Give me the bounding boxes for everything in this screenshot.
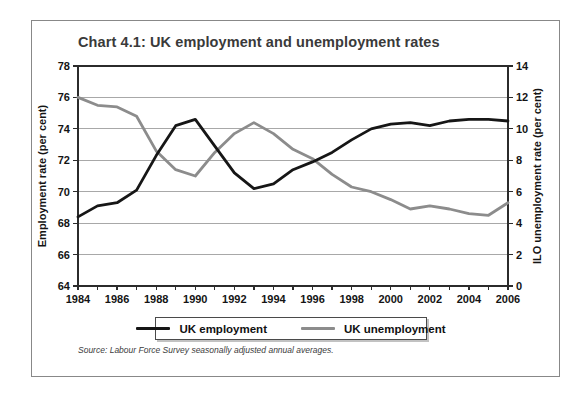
legend-label-employment: UK employment <box>179 323 267 335</box>
legend: UK employment UK unemployment <box>155 317 427 340</box>
x-axis-tick-label: 1994 <box>261 293 286 305</box>
x-axis-tick-label: 1988 <box>144 293 168 305</box>
x-axis-tick-label: 2006 <box>496 293 520 305</box>
left-axis-tick-label: 66 <box>58 249 70 261</box>
right-axis-tick-label: 12 <box>516 91 528 103</box>
legend-entry-employment: UK employment <box>136 323 267 335</box>
x-axis-tick-label: 1990 <box>183 293 207 305</box>
right-axis-tick-label: 2 <box>516 249 522 261</box>
legend-label-unemployment: UK unemployment <box>344 323 446 335</box>
plot-border <box>78 66 508 286</box>
x-axis-tick-label: 2000 <box>378 293 402 305</box>
left-axis-tick-label: 64 <box>58 280 71 292</box>
right-axis-tick-label: 0 <box>516 280 522 292</box>
left-axis-tick-label: 74 <box>58 123 71 135</box>
left-axis-tick-label: 68 <box>58 217 70 229</box>
right-axis-tick-label: 6 <box>516 186 522 198</box>
x-axis-tick-label: 1998 <box>339 293 363 305</box>
chart-frame: Chart 4.1: UK employment and unemploymen… <box>31 20 560 377</box>
x-axis-tick-label: 2002 <box>418 293 442 305</box>
right-axis-tick-label: 10 <box>516 123 528 135</box>
left-axis-tick-label: 76 <box>58 91 70 103</box>
x-axis-tick-label: 1984 <box>66 293 91 305</box>
left-axis-tick-label: 78 <box>58 60 70 72</box>
page: Chart 4.1: UK employment and unemploymen… <box>0 0 588 396</box>
uk-unemployment-line <box>78 97 508 215</box>
employment-line-swatch <box>136 327 170 330</box>
x-axis-tick-label: 1992 <box>222 293 246 305</box>
legend-entry-unemployment: UK unemployment <box>301 323 446 335</box>
x-axis-tick-label: 1986 <box>105 293 129 305</box>
x-axis-tick-label: 2004 <box>457 293 482 305</box>
unemployment-line-swatch <box>301 327 335 330</box>
left-axis-tick-label: 72 <box>58 154 70 166</box>
right-axis-tick-label: 8 <box>516 154 522 166</box>
uk-employment-line <box>78 119 508 216</box>
right-axis-tick-label: 14 <box>516 60 529 72</box>
source-note: Source: Labour Force Survey seasonally a… <box>78 345 334 355</box>
left-axis-tick-label: 70 <box>58 186 70 198</box>
right-axis-tick-label: 4 <box>516 217 523 229</box>
x-axis-tick-label: 1996 <box>300 293 324 305</box>
